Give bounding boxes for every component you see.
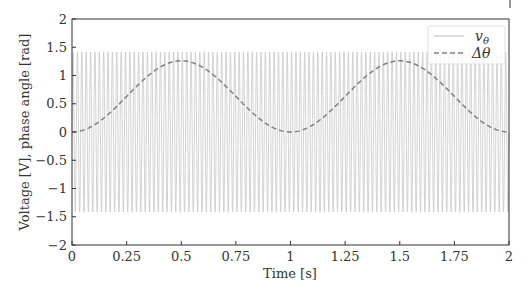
x-tick-label: 1.25 [331,249,360,264]
y-tick-label: 0.5 [46,96,67,111]
x-tick-label: 0.25 [112,249,141,264]
x-axis-ticks: 00.250.50.7511.251.51.752 [68,241,513,264]
x-tick-label: 1.5 [389,249,410,264]
chart: 00.250.50.7511.251.51.752 −2−1.5−1−0.500… [0,0,528,294]
x-tick-label: 0 [68,249,76,264]
x-axis-label: Time [s] [263,266,317,281]
x-tick-label: 0.5 [171,249,192,264]
legend-label-delta-theta: Δθ [471,45,491,61]
x-tick-label: 0.75 [221,249,250,264]
y-axis-ticks: −2−1.5−1−0.500.511.52 [35,12,76,253]
y-tick-label: −1.5 [35,209,67,224]
y-tick-label: 0 [59,125,67,140]
y-axis-label: Voltage [V], phase angle [rad] [17,34,32,232]
legend: vθ Δθ [428,26,505,64]
y-tick-label: −1 [48,181,67,196]
plot-area [72,52,509,212]
y-tick-label: 2 [59,12,67,27]
x-tick-label: 1.75 [440,249,469,264]
legend-box [428,26,505,64]
x-tick-label: 2 [505,249,513,264]
y-tick-label: −2 [48,238,67,253]
y-tick-label: 1.5 [46,40,67,55]
y-tick-label: −0.5 [35,153,67,168]
y-tick-label: 1 [59,68,67,83]
x-tick-label: 1 [286,249,294,264]
